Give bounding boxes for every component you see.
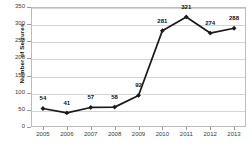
x-tick-mark [43, 127, 44, 130]
data-point-label: 281 [149, 18, 175, 24]
x-tick-mark [162, 127, 163, 130]
y-tick-label: 100 [2, 89, 25, 95]
seizures-line-chart: Number of Seizures 050100150200250300350… [0, 0, 252, 146]
y-tick-label: 200 [2, 54, 25, 60]
y-tick-label: 150 [2, 72, 25, 78]
data-point-label: 321 [173, 4, 199, 10]
data-point-label: 92 [126, 82, 152, 88]
data-point-label: 54 [30, 95, 56, 101]
x-tick-mark [186, 127, 187, 130]
x-tick-mark [210, 127, 211, 130]
x-tick-mark [91, 127, 92, 130]
y-tick-label: 0 [2, 123, 25, 129]
data-point-labels: 5441575892281321274288 [31, 7, 246, 127]
y-tick-label: 300 [2, 20, 25, 26]
x-tick-mark [67, 127, 68, 130]
x-tick-mark [139, 127, 140, 130]
y-tick-label: 250 [2, 37, 25, 43]
data-point-label: 288 [221, 15, 247, 21]
x-axis-labels: 200520062007200820092010201120122013 [31, 131, 246, 143]
x-tick-mark [115, 127, 116, 130]
data-point-label: 58 [102, 94, 128, 100]
x-tick-mark [234, 127, 235, 130]
data-point-label: 274 [197, 20, 223, 26]
y-tick-label: 350 [2, 3, 25, 9]
y-tick-label: 50 [2, 106, 25, 112]
data-point-label: 41 [54, 100, 80, 106]
data-point-label: 57 [78, 94, 104, 100]
x-tick-label: 2013 [219, 131, 249, 137]
